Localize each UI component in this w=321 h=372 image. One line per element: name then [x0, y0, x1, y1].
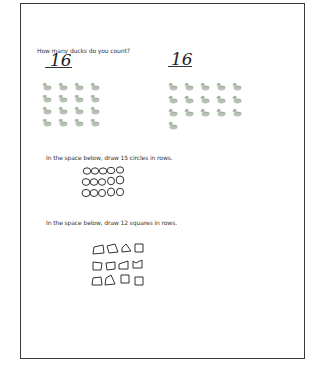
- duck-icon: [42, 82, 52, 91]
- duck-icon: [168, 121, 178, 130]
- duck-icon: [200, 82, 210, 91]
- duck-icon: [232, 82, 242, 91]
- duck-icon: [90, 94, 100, 103]
- drawn-circles: [80, 165, 135, 203]
- duck-icon: [42, 106, 52, 115]
- duck-icon: [74, 118, 84, 127]
- duck-icon: [58, 94, 68, 103]
- instruction-circles: In the space below, draw 15 circles in r…: [46, 154, 173, 161]
- duck-icon: [74, 94, 84, 103]
- answer-left-underline: [45, 67, 72, 68]
- instruction-squares: In the space below, draw 12 squares in r…: [46, 219, 177, 226]
- duck-group-left: [42, 82, 106, 127]
- duck-icon: [216, 108, 226, 117]
- duck-icon: [58, 82, 68, 91]
- duck-icon: [168, 108, 178, 117]
- duck-icon: [74, 82, 84, 91]
- duck-icon: [168, 82, 178, 91]
- duck-icon: [90, 118, 100, 127]
- duck-icon: [74, 106, 84, 115]
- duck-icon: [58, 106, 68, 115]
- duck-icon: [200, 108, 210, 117]
- duck-icon: [232, 95, 242, 104]
- duck-icon: [200, 95, 210, 104]
- duck-icon: [184, 108, 194, 117]
- duck-icon: [216, 82, 226, 91]
- answer-right-underline: [168, 66, 192, 67]
- drawn-squares: [90, 242, 155, 287]
- duck-icon: [232, 108, 242, 117]
- duck-icon: [42, 118, 52, 127]
- duck-icon: [184, 95, 194, 104]
- duck-icon: [42, 94, 52, 103]
- duck-icon: [58, 118, 68, 127]
- duck-icon: [184, 82, 194, 91]
- duck-icon: [216, 95, 226, 104]
- duck-group-right: [168, 82, 248, 130]
- duck-icon: [90, 82, 100, 91]
- duck-icon: [168, 95, 178, 104]
- duck-icon: [90, 106, 100, 115]
